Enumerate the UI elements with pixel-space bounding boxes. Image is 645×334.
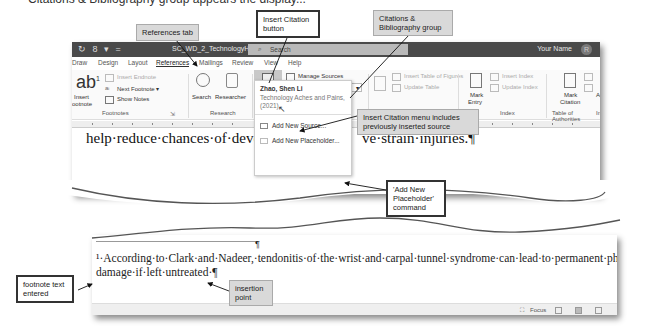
callout-references-tab: References tab [136, 24, 199, 41]
callout-leader-lines [0, 0, 645, 334]
callout-insert-citation-button: Insert Citation button [256, 10, 320, 38]
callout-footnote-text-entered: footnote text entered [16, 275, 74, 303]
callout-citations-group: Citations & Bibliography group [373, 10, 453, 36]
callout-add-new-placeholder: 'Add New Placeholder' command [386, 180, 446, 217]
callout-menu-includes-source: Insert Citation menu includes previously… [357, 109, 479, 135]
callout-insertion-point: insertion point [229, 280, 273, 306]
